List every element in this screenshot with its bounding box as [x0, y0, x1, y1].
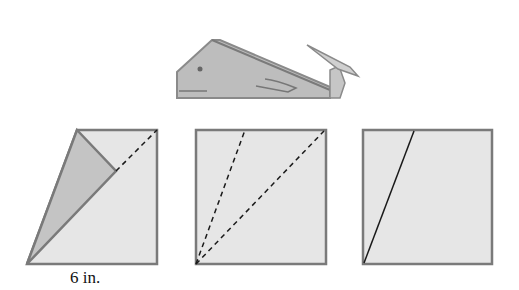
- dimension-label: 6 in.: [70, 268, 100, 288]
- whale-illustration: [177, 40, 358, 98]
- step-3-diagram: [363, 130, 492, 264]
- step-2-diagram: [196, 130, 326, 264]
- origami-diagram: [0, 0, 519, 290]
- step-1-diagram: [27, 130, 157, 264]
- whale-eye-icon: [198, 67, 203, 72]
